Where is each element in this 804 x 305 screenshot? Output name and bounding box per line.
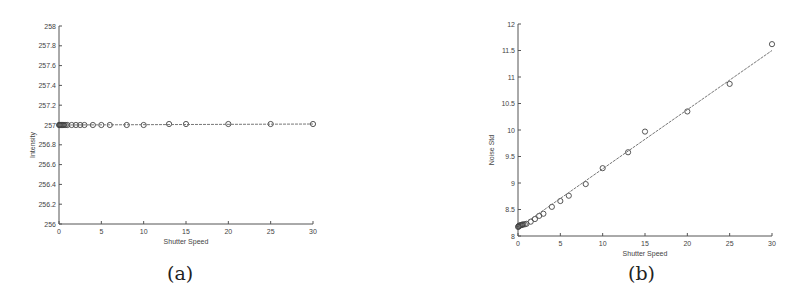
- y-tick-label: 9.5: [505, 153, 515, 160]
- x-tick-label: 5: [558, 240, 562, 247]
- x-tick-label: 0: [57, 228, 61, 235]
- y-tick-label: 8: [511, 233, 515, 240]
- chart-a: 051015202530256256.2256.4256.6256.825725…: [0, 0, 400, 305]
- chart-b-plot: 05101520253088.599.51010.51111.512Shutte…: [400, 0, 804, 305]
- x-tick-label: 15: [641, 240, 649, 247]
- y-tick-label: 257: [44, 122, 56, 129]
- x-tick-label: 20: [683, 240, 691, 247]
- y-tick-label: 9: [511, 180, 515, 187]
- y-tick-label: 10.5: [501, 100, 515, 107]
- data-point: [166, 121, 171, 126]
- y-tick-label: 257.4: [38, 82, 56, 89]
- y-tick-label: 12: [507, 21, 515, 28]
- fit-line: [59, 124, 313, 125]
- y-axis-label: Intensity: [29, 131, 37, 158]
- chart-b: 05101520253088.599.51010.51111.512Shutte…: [400, 0, 804, 305]
- y-tick-label: 257.2: [38, 102, 56, 109]
- y-axis-label: Noise Std: [488, 135, 495, 165]
- x-axis-label: Shutter Speed: [623, 250, 668, 258]
- y-tick-label: 8.5: [505, 206, 515, 213]
- x-tick-label: 30: [768, 240, 776, 247]
- y-tick-label: 257.8: [38, 42, 56, 49]
- data-point: [642, 129, 647, 134]
- x-tick-label: 20: [224, 228, 232, 235]
- x-tick-label: 30: [309, 228, 317, 235]
- x-tick-label: 5: [99, 228, 103, 235]
- x-tick-label: 0: [516, 240, 520, 247]
- y-tick-label: 256.2: [38, 201, 56, 208]
- y-tick-label: 11.5: [502, 47, 515, 54]
- x-tick-label: 25: [267, 228, 275, 235]
- fit-line: [518, 51, 772, 229]
- data-point: [727, 81, 732, 86]
- caption-a: (a): [167, 262, 193, 284]
- data-point: [549, 204, 554, 209]
- y-tick-label: 10: [507, 127, 515, 134]
- y-tick-label: 257.6: [38, 62, 56, 69]
- y-tick-label: 256: [44, 221, 56, 228]
- data-point: [566, 193, 571, 198]
- data-point: [769, 42, 774, 47]
- y-tick-label: 258: [44, 23, 56, 30]
- x-tick-label: 10: [140, 228, 148, 235]
- x-tick-label: 15: [182, 228, 190, 235]
- y-tick-label: 11: [508, 74, 515, 81]
- x-tick-label: 25: [726, 240, 734, 247]
- y-tick-label: 256.8: [38, 141, 56, 148]
- y-tick-label: 256.4: [38, 181, 56, 188]
- caption-b: (b): [628, 262, 655, 284]
- x-axis-label: Shutter Speed: [164, 238, 209, 246]
- chart-a-plot: 051015202530256256.2256.4256.6256.825725…: [0, 0, 400, 305]
- x-tick-label: 10: [599, 240, 607, 247]
- y-tick-label: 256.6: [38, 161, 56, 168]
